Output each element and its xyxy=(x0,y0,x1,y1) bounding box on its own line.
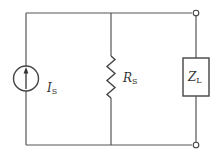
terminal-top xyxy=(193,10,199,16)
current-source-label: IS xyxy=(47,82,57,96)
current-source-icon xyxy=(14,66,39,91)
resistor-icon xyxy=(107,56,115,98)
load-impedance-label: ZL xyxy=(188,71,202,85)
terminal-bottom xyxy=(193,142,199,148)
resistor-label: RS xyxy=(123,72,138,86)
